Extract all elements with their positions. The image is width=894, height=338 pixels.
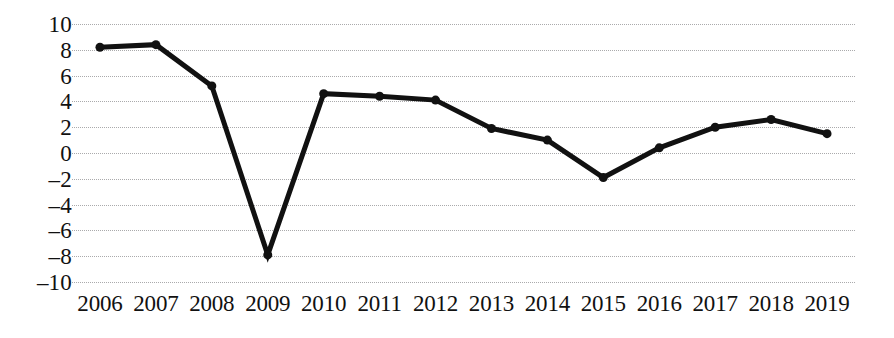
data-point-marker — [431, 96, 440, 105]
data-point-marker — [263, 250, 272, 259]
y-tick-label: 6 — [10, 65, 72, 88]
y-tick-label: –10 — [10, 271, 72, 294]
data-point-marker — [95, 43, 104, 52]
x-tick-label: 2014 — [519, 292, 575, 315]
y-tick-label: –8 — [10, 245, 72, 268]
data-point-marker — [543, 136, 552, 145]
x-tick-label: 2018 — [743, 292, 799, 315]
x-axis-tick-labels: 2006200720082009201020112012201320142015… — [0, 292, 894, 338]
x-tick-label: 2013 — [464, 292, 520, 315]
x-tick-label: 2012 — [408, 292, 464, 315]
data-point-marker — [207, 81, 216, 90]
x-tick-label: 2011 — [352, 292, 408, 315]
x-tick-label: 2009 — [240, 292, 296, 315]
plot-area — [72, 24, 855, 282]
y-tick-label: –6 — [10, 219, 72, 242]
data-point-marker — [655, 143, 664, 152]
y-tick-label: 0 — [10, 142, 72, 165]
x-tick-label: 2008 — [184, 292, 240, 315]
data-point-marker — [823, 129, 832, 138]
x-tick-label: 2006 — [72, 292, 128, 315]
y-tick-label: 10 — [10, 13, 72, 36]
series-line — [100, 45, 827, 255]
x-tick-label: 2019 — [799, 292, 855, 315]
line-chart: 1086420–2–4–6–8–10 200620072008200920102… — [0, 0, 894, 338]
x-tick-label: 2017 — [687, 292, 743, 315]
data-point-marker — [319, 89, 328, 98]
y-axis-tick-labels: 1086420–2–4–6–8–10 — [0, 0, 72, 338]
x-tick-label: 2007 — [128, 292, 184, 315]
data-series — [72, 24, 855, 282]
data-point-marker — [767, 115, 776, 124]
data-point-marker — [487, 124, 496, 133]
data-point-marker — [711, 123, 720, 132]
x-tick-label: 2015 — [575, 292, 631, 315]
y-tick-label: –2 — [10, 168, 72, 191]
x-tick-label: 2016 — [631, 292, 687, 315]
data-point-marker — [375, 92, 384, 101]
data-point-marker — [151, 40, 160, 49]
x-tick-label: 2010 — [296, 292, 352, 315]
y-tick-label: 4 — [10, 90, 72, 113]
y-tick-label: 2 — [10, 116, 72, 139]
data-point-marker — [599, 173, 608, 182]
y-tick-label: –4 — [10, 194, 72, 217]
gridline — [72, 282, 855, 283]
y-tick-label: 8 — [10, 39, 72, 62]
